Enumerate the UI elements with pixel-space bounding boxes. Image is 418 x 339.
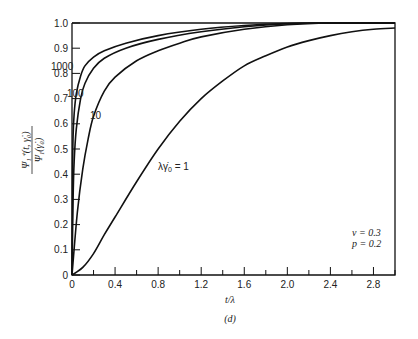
svg-text:Ψ₁⁺(t, γ̇₀): Ψ₁⁺(t, γ̇₀) — [20, 131, 32, 169]
x-tick-label: 0.8 — [151, 279, 165, 290]
x-tick-label: 2.8 — [367, 279, 381, 290]
p-annotation: p = 0.2 — [351, 238, 381, 249]
x-axis-label: t/λ — [225, 294, 236, 305]
curve-1000 — [72, 23, 395, 275]
curves — [72, 23, 395, 275]
x-tick-label: 0.4 — [108, 279, 122, 290]
curve-label-100: 100 — [67, 88, 84, 99]
y-tick-label: 0.1 — [54, 244, 68, 255]
curve-100 — [72, 23, 395, 275]
curve-label-10: 10 — [90, 110, 102, 121]
y-axis-label: Ψ₁⁺(t, γ̇₀) Ψ₁(γ̇₀) — [20, 126, 45, 174]
y-tick-label: 0.6 — [54, 118, 68, 129]
svg-text:Ψ₁(γ̇₀): Ψ₁(γ̇₀) — [33, 137, 45, 162]
y-tick-label: 0.5 — [54, 144, 68, 155]
panel-label: (d) — [224, 313, 236, 325]
nu-annotation: ν = 0.3 — [352, 227, 381, 238]
x-tick-label: 2.4 — [323, 279, 337, 290]
y-tick-label: 0.3 — [54, 194, 68, 205]
x-tick-label: 1.2 — [194, 279, 208, 290]
x-tick-label: 0 — [69, 279, 75, 290]
y-tick-label: 0.4 — [54, 169, 68, 180]
y-tick-label: 0.2 — [54, 219, 68, 230]
x-tick-label: 1.6 — [237, 279, 251, 290]
y-tick-label: 0.9 — [54, 43, 68, 54]
curve-label-1: λγ̇0 = 1 — [158, 161, 189, 173]
chart: 00.10.20.30.40.50.60.70.80.91.000.40.81.… — [0, 0, 418, 339]
curve-01 — [72, 28, 395, 275]
y-tick-label: 1.0 — [54, 18, 68, 29]
y-tick-label: 0 — [62, 270, 68, 281]
x-tick-label: 2.0 — [280, 279, 294, 290]
curve-10 — [72, 23, 395, 275]
curve-label-1000: 1000 — [51, 61, 74, 72]
